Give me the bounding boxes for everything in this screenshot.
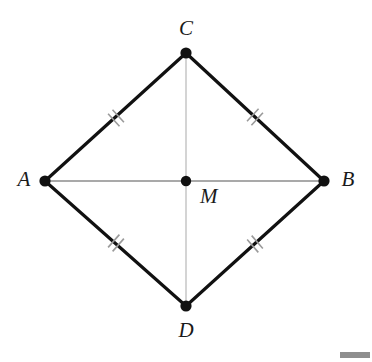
vertex-label-A: A <box>16 167 31 191</box>
rhombus-figure-svg: CABDM <box>0 0 372 362</box>
corner-artifact <box>340 352 370 358</box>
edge-CB <box>186 53 324 181</box>
center-dot-M <box>181 176 191 186</box>
vertex-dot-D <box>180 300 191 311</box>
edge-AD <box>45 181 186 306</box>
edge-AC <box>45 53 186 181</box>
geometry-diagram: CABDM <box>0 0 372 362</box>
vertex-dots-group <box>39 47 329 311</box>
vertex-label-C: C <box>179 16 194 40</box>
vertex-dot-C <box>180 47 191 58</box>
vertex-dot-B <box>318 175 329 186</box>
center-label-M: M <box>199 184 219 208</box>
vertex-label-B: B <box>342 167 355 191</box>
vertex-label-D: D <box>177 318 193 342</box>
vertex-dot-A <box>39 175 50 186</box>
